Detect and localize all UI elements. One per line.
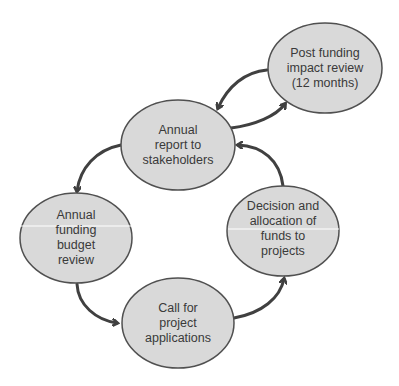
funding-cycle-diagram xyxy=(0,0,399,386)
arrow-decision-to-annual-report xyxy=(238,145,283,186)
arrow-call-to-decision xyxy=(234,279,284,318)
nodes xyxy=(20,23,382,368)
arrow-annual-report-to-funding-review xyxy=(77,145,121,191)
arrow-funding-review-to-call xyxy=(77,284,117,323)
node-post-funding-impact-review xyxy=(268,23,382,113)
arrow-annual-report-to-post-funding xyxy=(231,104,285,128)
node-call-for-applications xyxy=(122,278,234,368)
node-annual-funding-budget-review xyxy=(20,193,132,283)
arrow-post-funding-to-annual-report xyxy=(218,70,267,108)
node-decision-allocation xyxy=(227,186,339,276)
node-annual-report xyxy=(121,100,235,190)
